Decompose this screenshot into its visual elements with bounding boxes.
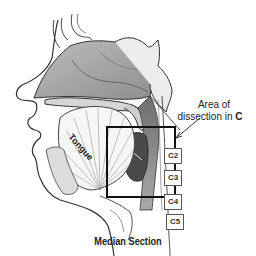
callout-line2: dissection in C — [176, 111, 244, 123]
figure-caption: Median Section — [10, 236, 246, 247]
median-section-illustration — [0, 0, 256, 256]
vertebra-label-c5: C5 — [166, 214, 184, 230]
vertebra-label-c4: C4 — [164, 194, 182, 210]
callout-line1: Area of — [184, 99, 244, 111]
vertebra-label-c3: C3 — [164, 170, 182, 186]
dissection-callout: Area of dissection in C — [184, 99, 244, 123]
vertebra-label-c2: C2 — [164, 148, 182, 164]
callout-line2-prefix: dissection in — [177, 111, 235, 122]
callout-panel-ref: C — [235, 111, 242, 122]
